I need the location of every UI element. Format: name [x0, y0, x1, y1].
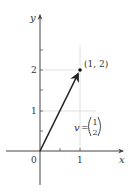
point-label: (1, 2) [84, 59, 108, 69]
y-axis-label: y [29, 12, 36, 23]
component-2: 2 [93, 128, 98, 137]
point-marker [78, 68, 82, 72]
vector-diagram: y x 0 1 1 2 (1, 2) v = 1 2 [0, 0, 137, 195]
left-paren [89, 117, 92, 136]
vector-equation: v = 1 2 [74, 117, 101, 137]
vector-arrow [40, 74, 78, 151]
equals-sign: = [81, 123, 89, 133]
right-paren [98, 117, 101, 136]
vector-name: v [74, 122, 80, 133]
component-1: 1 [93, 118, 98, 127]
origin-label: 0 [31, 155, 37, 165]
y-tick-label-2: 2 [31, 65, 37, 75]
x-axis-label: x [119, 154, 125, 165]
x-tick-label-1: 1 [77, 155, 83, 165]
y-tick-label-1: 1 [31, 106, 37, 116]
